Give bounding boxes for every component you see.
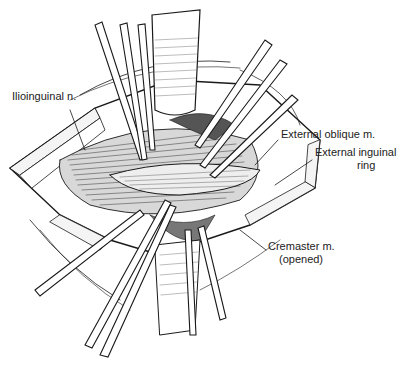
cremaster-leader (240, 230, 266, 250)
top-retractor-blade (152, 10, 200, 115)
label-ilioinguinal-nerve: Ilioinguinal n. (12, 90, 76, 103)
label-external-inguinal-ring-line2: ring (357, 159, 375, 172)
label-external-inguinal-ring-line1: External inguinal (315, 146, 396, 159)
illustration-drawing (0, 0, 403, 365)
surgical-illustration: Ilioinguinal n. External oblique m. Exte… (0, 0, 403, 365)
label-cremaster-muscle-line2: (opened) (279, 253, 323, 266)
label-external-oblique-muscle: External oblique m. (281, 128, 375, 141)
label-cremaster-muscle-line1: Cremaster m. (268, 240, 335, 253)
